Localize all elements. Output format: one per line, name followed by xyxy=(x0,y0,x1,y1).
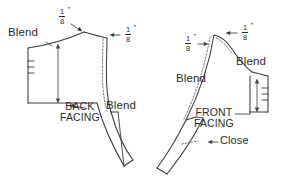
front-blend-right-label: Blend xyxy=(236,55,266,67)
back-facing-line2: FACING xyxy=(60,112,100,123)
front-eighth-right-measure: 1 8 ” xyxy=(242,24,248,41)
inch-mark: ” xyxy=(251,22,253,29)
front-block-top xyxy=(252,72,268,76)
fraction-numerator: 1 xyxy=(59,8,65,16)
fraction-denominator: 8 xyxy=(185,45,191,53)
back-blend-right-label: Blend xyxy=(106,99,136,111)
fraction-numerator: 1 xyxy=(125,26,131,34)
front-eighth-left-arrow xyxy=(198,42,209,46)
front-eighth-left-measure: 1 8 ” xyxy=(185,35,191,52)
back-eighth-left-arrow xyxy=(71,24,82,32)
fraction-denominator: 8 xyxy=(242,34,248,42)
front-blend-left-label: Blend xyxy=(176,72,206,84)
back-eighth-left-measure: 1 8 ” xyxy=(59,8,65,25)
front-close-label: Close xyxy=(220,135,249,147)
front-measure-arrow xyxy=(255,79,260,113)
back-tail-inner xyxy=(97,103,124,166)
back-blend-left-label: Blend xyxy=(8,26,38,38)
back-shoulder-edge xyxy=(84,32,107,38)
front-facing-title: FRONT FACING xyxy=(194,107,234,129)
fraction-numerator: 1 xyxy=(185,35,191,43)
inch-mark: ” xyxy=(134,24,136,31)
back-facing-title: BACK FACING xyxy=(60,101,100,123)
back-measure-arrow xyxy=(56,44,61,104)
back-eighth-right-measure: 1 8 ” xyxy=(125,26,131,43)
front-tail-end xyxy=(157,168,167,174)
front-facing-leader xyxy=(235,112,250,114)
back-tail-step-edge xyxy=(118,112,124,166)
back-eighth-right-arrow xyxy=(110,33,121,37)
front-neck-curve xyxy=(214,35,232,49)
pattern-diagram: 1 8 ” 1 8 ” 1 8 ” 1 8 ” Blend Blend Blen… xyxy=(0,0,290,186)
back-tail-end xyxy=(124,160,133,166)
front-facing-line2: FACING xyxy=(194,118,234,129)
inch-mark: ” xyxy=(68,6,70,13)
fraction-numerator: 1 xyxy=(242,24,248,32)
front-eighth-right-arrow xyxy=(226,31,238,35)
front-notch-marks xyxy=(262,88,268,100)
fraction-denominator: 8 xyxy=(125,36,131,44)
front-close-leader xyxy=(208,140,219,144)
inch-mark: ” xyxy=(194,33,196,40)
back-tail-outer xyxy=(111,112,133,160)
fraction-denominator: 8 xyxy=(59,18,65,26)
back-notch-marks xyxy=(28,61,34,73)
